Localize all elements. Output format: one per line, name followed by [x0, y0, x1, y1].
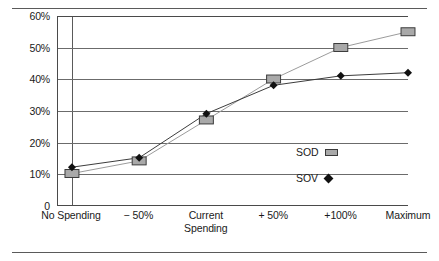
chart-figure: 010%20%30%40%50%60% No Spending− 50%Curr…	[0, 16, 439, 246]
legend-label: SOD	[296, 146, 318, 158]
x-tick-label: − 50%	[124, 209, 154, 222]
y-tick-label: 30%	[30, 106, 50, 116]
top-divider-rule	[12, 8, 427, 9]
data-point-sov	[404, 69, 412, 77]
data-point-sod	[334, 44, 348, 52]
data-point-sod	[401, 28, 415, 36]
diamond-marker-icon	[323, 173, 333, 183]
y-tick-label: 50%	[30, 43, 50, 53]
y-tick-label: 40%	[30, 74, 50, 84]
x-tick-label: Maximum	[386, 209, 431, 222]
legend-label: SOV	[296, 172, 318, 184]
bottom-divider-rule	[12, 252, 427, 253]
y-tick-label: 20%	[30, 138, 50, 148]
y-axis-tick-labels: 010%20%30%40%50%60%	[0, 16, 56, 206]
legend-item-sod: SOD	[296, 139, 392, 165]
data-point-sov	[337, 72, 345, 80]
x-tick-label: Current Spending	[184, 209, 228, 235]
legend-item-sov: SOV	[296, 165, 392, 191]
x-tick-label: +100%	[324, 209, 357, 222]
y-tick-label: 10%	[30, 169, 50, 179]
square-marker-icon	[325, 149, 338, 156]
y-tick-label: 60%	[30, 11, 50, 21]
x-axis-category-labels: No Spending− 50%Current Spending+ 50%+10…	[57, 209, 408, 245]
x-tick-label: No Spending	[41, 209, 101, 222]
x-tick-label: + 50%	[258, 209, 288, 222]
chart-legend: SODSOV	[296, 139, 392, 191]
